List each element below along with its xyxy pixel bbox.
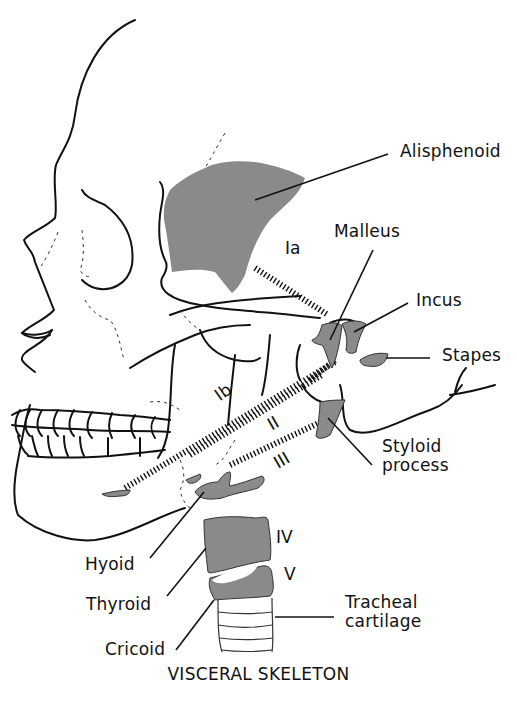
malleus-bone [312,323,342,368]
hyoid-bone [195,472,264,499]
arch-label-iv: IV [276,527,293,547]
arch-label-v: V [284,564,296,584]
arch-ib-line [125,362,335,488]
figure-caption: VISCERAL SKELETON [0,664,517,684]
stapes-bone [360,353,388,366]
leader-cricoid [176,600,214,650]
label-tracheal-cartilage: Tracheal cartilage [345,593,421,630]
leader-incus [354,303,408,332]
incus-bone [342,321,366,353]
alisphenoid-bone [164,161,305,293]
visceral-skeleton-figure: Alisphenoid Malleus Incus Stapes Styloid… [0,0,517,702]
label-incus: Incus [416,291,462,310]
orbit [82,190,133,289]
label-cricoid: Cricoid [105,640,165,659]
skull-diagram [0,0,517,702]
malleus-fragment [186,474,201,483]
label-styloid-line1: Styloid [382,437,449,456]
arch-ia-line [255,268,328,315]
label-tracheal-line2: cartilage [345,612,421,631]
label-thyroid: Thyroid [86,595,151,614]
tracheal-cartilage [218,598,273,652]
mandible-outline [14,405,185,540]
label-hyoid: Hyoid [85,555,135,574]
skull-outline [22,20,135,335]
label-styloid-line2: process [382,456,449,475]
label-alisphenoid: Alisphenoid [400,142,501,161]
thyroid-cartilage [204,517,271,573]
label-malleus: Malleus [334,222,400,241]
leader-hyoid [150,492,204,558]
arch-label-ia: Ia [285,238,300,258]
label-tracheal-line1: Tracheal [345,593,421,612]
label-stapes: Stapes [442,346,501,365]
label-styloid-process: Styloid process [382,437,449,474]
meckel-fragment [102,490,130,497]
leader-styloid [328,418,372,465]
leader-thyroid [167,548,206,596]
